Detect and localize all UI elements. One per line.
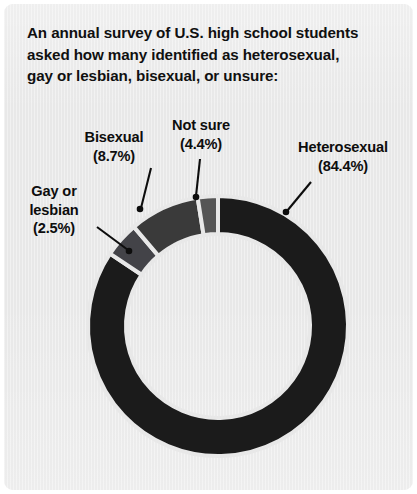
leader-line-bisexual <box>141 168 151 208</box>
slice-label-gay-or-lesbian-percent: (2.5%) <box>8 219 100 238</box>
chart-title-line-1: An annual survey of U.S. high school stu… <box>27 22 395 44</box>
slice-label-gay-or-lesbian: Gay or lesbian (2.5%) <box>8 182 100 238</box>
slice-label-not-sure-percent: (4.4%) <box>149 135 253 154</box>
leader-line-not-sure <box>196 159 200 196</box>
chart-panel: An annual survey of U.S. high school stu… <box>4 4 413 490</box>
slice-label-heterosexual-percent: (84.4%) <box>276 157 410 176</box>
slice-label-gay-or-lesbian-name-1: Gay or <box>8 182 100 201</box>
chart-title-line-2: asked how many identified as heterosexua… <box>27 44 395 66</box>
leader-dot-heterosexual <box>283 209 290 216</box>
leader-dot-not-sure <box>193 194 200 201</box>
slice-label-not-sure-name: Not sure <box>149 116 253 135</box>
slice-label-heterosexual: Heterosexual (84.4%) <box>276 138 410 175</box>
leader-dot-gay-or-lesbian <box>126 248 133 255</box>
chart-title-line-3: gay or lesbian, bisexual, or unsure: <box>27 65 395 87</box>
chart-title: An annual survey of U.S. high school stu… <box>27 22 395 87</box>
leader-dot-bisexual <box>137 206 144 213</box>
donut-slice-gay-or-lesbian[interactable] <box>198 196 218 235</box>
donut-slice-group <box>88 196 348 456</box>
leader-line-heterosexual <box>287 182 311 211</box>
slice-label-heterosexual-name: Heterosexual <box>276 138 410 157</box>
slice-label-gay-or-lesbian-name-2: lesbian <box>8 201 100 220</box>
slice-label-not-sure: Not sure (4.4%) <box>149 116 253 153</box>
